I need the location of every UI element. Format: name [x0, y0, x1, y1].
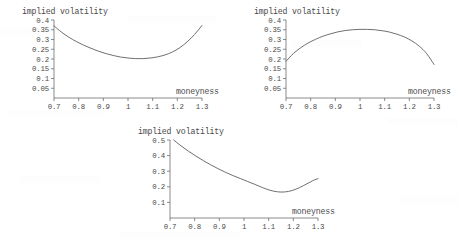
chart-skew-ylabel: implied volatility [138, 127, 224, 136]
svg-text:0.2: 0.2 [152, 183, 165, 191]
chart-skew-xlabel: moneyness [292, 207, 335, 216]
chart-smile-y-ticks: 0.4 0.35 0.3 0.25 0.2 0.15 0.1 0.05 [32, 17, 54, 93]
svg-text:0.3: 0.3 [36, 36, 49, 44]
chart-skew-curve [174, 140, 318, 192]
svg-text:0.05: 0.05 [264, 85, 281, 93]
chart-smile-xlabel: moneyness [176, 87, 219, 96]
svg-text:0.1: 0.1 [152, 199, 165, 207]
svg-text:0.8: 0.8 [304, 103, 317, 111]
svg-text:0.2: 0.2 [36, 56, 49, 64]
svg-text:1.3: 1.3 [428, 103, 441, 111]
svg-text:1.1: 1.1 [146, 103, 159, 111]
svg-text:0.5: 0.5 [152, 137, 165, 145]
chart-volatility-skew: implied volatility 0.5 0.4 0.3 0.2 0.1 0… [116, 122, 354, 240]
svg-text:0.25: 0.25 [32, 46, 49, 54]
svg-text:0.4: 0.4 [268, 17, 281, 25]
svg-text:0.4: 0.4 [152, 152, 165, 160]
svg-text:0.9: 0.9 [97, 103, 110, 111]
chart-frown-xlabel: moneyness [408, 87, 451, 96]
svg-text:0.1: 0.1 [268, 75, 281, 83]
svg-text:0.7: 0.7 [164, 223, 177, 231]
chart-frown-svg: implied volatility 0.4 0.35 0.3 0.25 0.2… [240, 2, 468, 114]
svg-text:1.1: 1.1 [378, 103, 391, 111]
svg-text:0.15: 0.15 [32, 65, 49, 73]
svg-text:0.8: 0.8 [72, 103, 85, 111]
svg-text:1.2: 1.2 [171, 103, 184, 111]
svg-text:0.2: 0.2 [268, 56, 281, 64]
svg-text:0.9: 0.9 [329, 103, 342, 111]
chart-skew-y-ticks: 0.5 0.4 0.3 0.2 0.1 [152, 137, 170, 207]
svg-text:0.05: 0.05 [32, 85, 49, 93]
svg-text:1.3: 1.3 [312, 223, 325, 231]
svg-text:0.25: 0.25 [264, 46, 281, 54]
svg-text:1: 1 [126, 103, 131, 111]
chart-volatility-smile: implied volatility 0.4 0.35 0.3 0.25 0.2… [6, 2, 234, 114]
chart-volatility-frown: implied volatility 0.4 0.35 0.3 0.25 0.2… [240, 2, 468, 114]
svg-text:0.35: 0.35 [264, 26, 281, 34]
chart-frown-curve [286, 29, 434, 64]
svg-text:0.4: 0.4 [36, 17, 49, 25]
svg-text:1: 1 [358, 103, 363, 111]
chart-frown-x-ticks: 0.7 0.8 0.9 1 1.1 1.2 1.3 [280, 98, 441, 111]
chart-smile-ylabel: implied volatility [22, 7, 108, 16]
chart-skew-x-ticks: 0.7 0.8 0.9 1 1.1 1.2 1.3 [164, 218, 325, 231]
svg-text:1: 1 [242, 223, 247, 231]
svg-text:0.3: 0.3 [152, 168, 165, 176]
svg-text:0.8: 0.8 [188, 223, 201, 231]
chart-skew-svg: implied volatility 0.5 0.4 0.3 0.2 0.1 0… [116, 122, 354, 240]
svg-text:0.3: 0.3 [268, 36, 281, 44]
svg-text:1.2: 1.2 [403, 103, 416, 111]
svg-text:1.3: 1.3 [196, 103, 209, 111]
chart-smile-svg: implied volatility 0.4 0.35 0.3 0.25 0.2… [6, 2, 234, 114]
chart-frown-y-ticks: 0.4 0.35 0.3 0.25 0.2 0.15 0.1 0.05 [264, 17, 286, 93]
svg-text:0.1: 0.1 [36, 75, 49, 83]
svg-text:1.2: 1.2 [287, 223, 300, 231]
svg-text:0.7: 0.7 [280, 103, 293, 111]
svg-text:0.9: 0.9 [213, 223, 226, 231]
svg-text:1.1: 1.1 [262, 223, 275, 231]
chart-frown-ylabel: implied volatility [254, 7, 340, 16]
svg-text:0.7: 0.7 [48, 103, 61, 111]
chart-smile-curve [54, 25, 202, 58]
svg-text:0.35: 0.35 [32, 26, 49, 34]
svg-text:0.15: 0.15 [264, 65, 281, 73]
chart-smile-x-ticks: 0.7 0.8 0.9 1 1.1 1.2 1.3 [48, 98, 209, 111]
